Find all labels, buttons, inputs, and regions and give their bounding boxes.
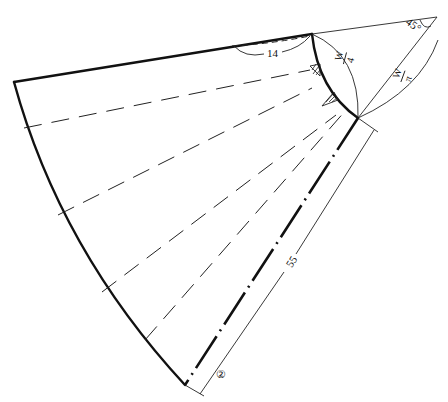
dimension-line-upper [296, 130, 374, 254]
extension-label: 14 [267, 47, 279, 59]
waist-curve [312, 34, 358, 118]
slash-line-2 [58, 88, 312, 215]
slash-line-4 [145, 110, 346, 340]
hem-curve [14, 82, 185, 385]
dimension-tick-top [358, 118, 378, 132]
waist-extension-arc [234, 46, 264, 55]
slash-line-1 [24, 70, 310, 128]
length-label: 55 [283, 253, 299, 269]
center-line [185, 118, 358, 385]
skirt-pattern-diagram: 45° W π W 4 14 55 [0, 0, 448, 402]
dart-lower [322, 92, 338, 106]
angle-label: 45° [404, 15, 424, 34]
svg-text:π: π [402, 74, 414, 83]
piece-number: ② [216, 368, 226, 380]
dimension-line-lower [200, 272, 284, 394]
slash-line-3 [102, 115, 336, 292]
radius-construction-line [358, 17, 437, 118]
dimension-tick-bottom [185, 385, 204, 396]
waist-label: W 4 [332, 49, 357, 67]
waist-arc [312, 34, 358, 118]
radius-label: W π [390, 67, 416, 86]
